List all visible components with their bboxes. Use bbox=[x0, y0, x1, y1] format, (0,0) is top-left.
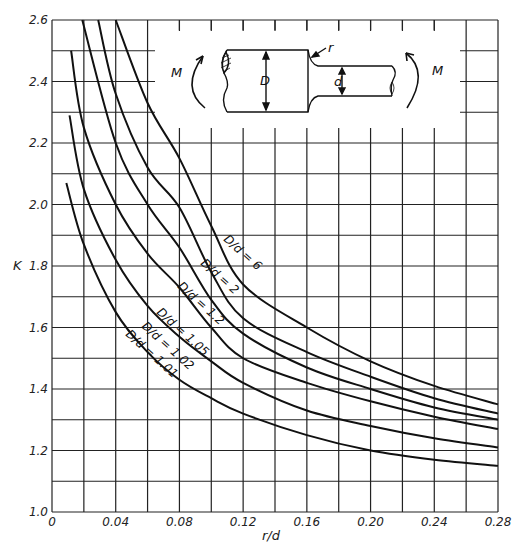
stress-concentration-chart: 00.040.080.120.160.200.240.281.01.21.41.… bbox=[0, 0, 521, 557]
inset-label-d: d bbox=[334, 74, 343, 89]
y-tick-label: 2.4 bbox=[29, 75, 48, 89]
x-tick-label: 0.04 bbox=[102, 515, 129, 529]
inset-label-M-left: M bbox=[171, 65, 182, 80]
x-tick-label: 0.28 bbox=[485, 515, 512, 529]
x-axis-label: r/d bbox=[262, 528, 281, 543]
x-tick-label: 0 bbox=[48, 515, 56, 529]
y-tick-label: 2.6 bbox=[29, 13, 48, 27]
x-tick-label: 0.20 bbox=[357, 515, 384, 529]
y-tick-label: 1.4 bbox=[29, 382, 48, 396]
x-tick-label: 0.16 bbox=[293, 515, 320, 529]
y-tick-label: 2.0 bbox=[29, 198, 48, 212]
y-tick-label: 1.6 bbox=[29, 321, 48, 335]
y-tick-label: 1.8 bbox=[29, 259, 48, 273]
y-tick-label: 2.2 bbox=[29, 136, 48, 150]
inset-label-D: D bbox=[260, 73, 270, 88]
y-tick-label: 1.0 bbox=[29, 505, 48, 519]
y-axis-label: K bbox=[13, 258, 23, 273]
curve-d-d-1-01 bbox=[66, 183, 498, 466]
x-tick-label: 0.12 bbox=[230, 515, 257, 529]
y-tick-label: 1.2 bbox=[29, 444, 48, 458]
x-tick-label: 0.24 bbox=[421, 515, 448, 529]
x-tick-label: 0.08 bbox=[166, 515, 193, 529]
inset-label-M-right: M bbox=[432, 63, 443, 78]
